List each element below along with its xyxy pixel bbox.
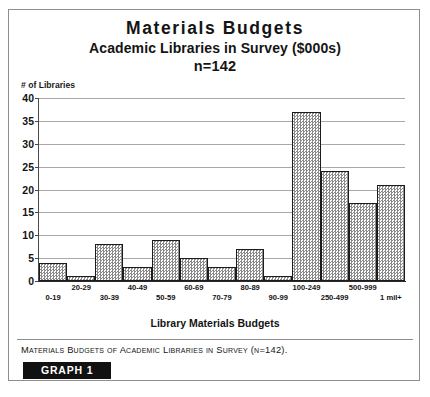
chart-subtitle: Academic Libraries in Survey ($000s) [9,39,421,57]
y-axis-tick-label: 5 [28,252,34,264]
graph-number-tag: GRAPH 1 [23,362,111,379]
x-axis-tick-label: 40-49 [128,283,147,292]
bar [208,267,236,281]
x-axis-tick-label: 1 mil+ [380,293,402,302]
x-axis-tick-labels: 0-1920-2930-3940-4950-5960-6970-7980-899… [39,283,405,309]
x-axis-line [38,281,406,282]
x-axis-tick-label: 50-59 [156,293,175,302]
x-axis-tick-label: 80-89 [240,283,259,292]
bar-series [39,98,405,281]
y-axis-tick-label: 0 [28,275,34,287]
y-axis-tick-label: 20 [22,184,34,196]
bar [95,244,123,281]
bar [39,263,67,281]
x-axis-tick-label: 20-29 [72,283,91,292]
bar [349,203,377,281]
x-axis-tick-label: 60-69 [184,283,203,292]
x-axis-tick-label: 500-999 [349,283,377,292]
bar [377,185,405,281]
y-axis-tick-label: 10 [22,229,34,241]
y-axis-tick-label: 25 [22,161,34,173]
x-axis-tick-label: 70-79 [212,293,231,302]
figure-caption: Materials Budgets of Academic Libraries … [21,345,288,355]
y-axis-tick-label: 35 [22,115,34,127]
plot-area: 0510152025303540 [39,98,405,281]
bar [152,240,180,281]
bar [292,112,320,281]
bar [180,258,208,281]
caption-divider [17,339,413,340]
x-axis-tick-label: 100-249 [293,283,321,292]
y-axis-tick-label: 15 [22,206,34,218]
sample-size-annotation: n=142 [9,57,421,76]
x-axis-tick-label: 0-19 [45,293,60,302]
x-axis-title: Library Materials Budgets [9,317,421,329]
x-axis-tick-label: 90-99 [269,293,288,302]
page-title: Materials Budgets [9,18,421,39]
bar [321,171,349,281]
bar [236,249,264,281]
plot-inner: 0510152025303540 [39,98,405,281]
y-axis-tick-label: 40 [22,92,34,104]
figure-frame: Materials Budgets Academic Libraries in … [8,9,420,381]
bar [123,267,151,281]
x-axis-tick-label: 30-39 [100,293,119,302]
chart-title-block: Materials Budgets Academic Libraries in … [9,18,421,76]
y-axis-tick-label: 30 [22,138,34,150]
y-axis-title: # of Libraries [21,80,75,90]
x-axis-tick-label: 250-499 [321,293,349,302]
